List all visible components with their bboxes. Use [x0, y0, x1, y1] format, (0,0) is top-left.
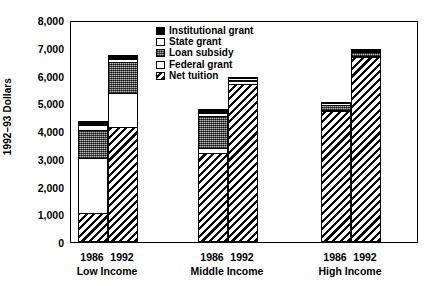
legend-item: Loan subsidy	[156, 48, 253, 59]
bar-low-income-1986[interactable]	[78, 121, 108, 242]
y-tick-label: 8,000	[18, 15, 64, 27]
segment-institutional-grant	[322, 103, 350, 104]
segment-state-grant	[79, 126, 107, 130]
segment-loan-subsidy	[199, 117, 227, 150]
x-tick-label-year: 1992	[230, 251, 253, 263]
y-tick-label: 2,000	[18, 182, 64, 194]
segment-federal-grant	[322, 111, 350, 112]
bar-high-income-1986[interactable]	[321, 102, 351, 242]
segment-loan-subsidy	[109, 63, 137, 95]
y-tick-label: 1,000	[18, 209, 64, 221]
x-tick-label-year: 1986	[323, 251, 346, 263]
segment-net-tuition	[229, 85, 257, 241]
segment-state-grant	[322, 104, 350, 105]
legend-item: Institutional grant	[156, 25, 253, 36]
segment-state-grant	[109, 60, 137, 63]
segment-net-tuition	[109, 128, 137, 241]
bar-middle-income-1992[interactable]	[228, 77, 258, 242]
y-tick-label: 5,000	[18, 98, 64, 110]
legend-label: Institutional grant	[169, 26, 253, 36]
legend-swatch-icon	[156, 49, 165, 57]
legend-swatch-icon	[156, 72, 165, 80]
segment-loan-subsidy	[79, 131, 107, 160]
segment-state-grant	[199, 114, 227, 117]
legend-item: State grant	[156, 36, 253, 47]
x-group-label: Low Income	[77, 265, 138, 277]
legend-swatch-icon	[156, 38, 165, 46]
segment-loan-subsidy	[352, 53, 380, 57]
segment-net-tuition	[352, 58, 380, 241]
legend-label: Net tuition	[169, 71, 218, 81]
bar-high-income-1992[interactable]	[351, 49, 381, 242]
legend-label: Loan subsidy	[169, 48, 233, 58]
legend-item: Federal grant	[156, 59, 253, 70]
segment-institutional-grant	[352, 50, 380, 51]
segment-net-tuition	[322, 112, 350, 241]
x-tick-label-year: 1986	[200, 251, 223, 263]
legend-swatch-icon	[156, 27, 165, 35]
x-tick-label-year: 1992	[110, 251, 133, 263]
segment-loan-subsidy	[322, 106, 350, 111]
segment-federal-grant	[229, 82, 257, 85]
segment-federal-grant	[109, 94, 137, 128]
bar-middle-income-1986[interactable]	[198, 109, 228, 242]
segment-state-grant	[352, 52, 380, 53]
segment-federal-grant	[79, 159, 107, 214]
segment-net-tuition	[79, 214, 107, 241]
bar-low-income-1992[interactable]	[108, 55, 138, 242]
segment-institutional-grant	[79, 122, 107, 126]
stacked-bar-chart: 1992–93 Dollars 8,0007,0006,0005,0004,00…	[0, 0, 434, 286]
y-tick-label: 3,000	[18, 154, 64, 166]
y-tick-label: 7,000	[18, 43, 64, 55]
legend-label: Federal grant	[169, 60, 232, 70]
legend-label: State grant	[169, 37, 221, 47]
segment-federal-grant	[199, 149, 227, 153]
legend-item: Net tuition	[156, 71, 253, 82]
x-group-label: Middle Income	[191, 265, 264, 277]
legend-swatch-icon	[156, 61, 165, 69]
segment-federal-grant	[352, 57, 380, 58]
x-tick-label-year: 1986	[80, 251, 103, 263]
segment-net-tuition	[199, 154, 227, 241]
segment-institutional-grant	[109, 56, 137, 60]
y-tick-label: 4,000	[18, 126, 64, 138]
segment-institutional-grant	[199, 110, 227, 114]
legend: Institutional grantState grantLoan subsi…	[156, 25, 253, 82]
x-tick-label-year: 1992	[353, 251, 376, 263]
x-group-label: High Income	[318, 265, 381, 277]
y-tick-label: 6,000	[18, 71, 64, 83]
y-tick-label: 0	[18, 237, 64, 249]
